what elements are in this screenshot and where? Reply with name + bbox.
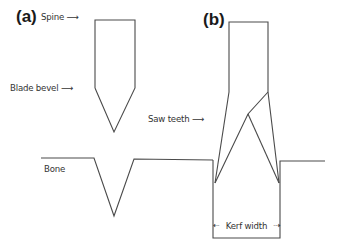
blade-bevel-label-text: Blade bevel	[10, 83, 58, 93]
panel-a-label: (a)	[16, 8, 37, 25]
arrow-right-icon: ⇢	[273, 222, 280, 230]
arrow-right-icon: ⟶	[67, 12, 79, 22]
arrow-right-icon: ⟶	[192, 114, 204, 124]
bone-surface-v-cut	[41, 158, 213, 216]
saw-tooth-left	[215, 92, 268, 183]
kerf-width-label: ⇠ Kerf width ⇢	[213, 222, 280, 231]
arrow-right-icon: ⟶	[61, 83, 73, 93]
spine-label: Spine ⟶	[41, 13, 79, 22]
blade-bevel-label: Blade bevel ⟶	[10, 84, 73, 93]
saw-teeth-label-text: Saw teeth	[148, 114, 189, 124]
panel-b-label: (b)	[203, 11, 225, 28]
knife-blade-outline	[95, 20, 135, 132]
saw-blade-outline	[229, 22, 279, 183]
saw-teeth-label: Saw teeth ⟶	[148, 115, 204, 124]
blade-cut-diagram: (a) Spine ⟶ Blade bevel ⟶ Bone (b) Saw t…	[0, 0, 341, 245]
kerf-width-label-text: Kerf width	[220, 222, 274, 231]
spine-label-text: Spine	[41, 12, 64, 22]
bone-label: Bone	[44, 165, 65, 174]
